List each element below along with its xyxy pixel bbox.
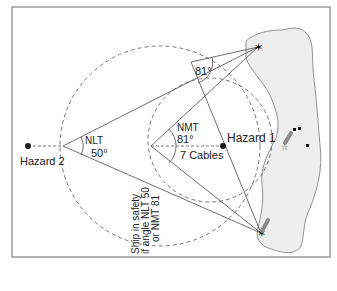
- nlt-label: NLT: [85, 135, 103, 146]
- safety-note-line3: or NMT 81: [150, 195, 161, 242]
- building-icon: [306, 144, 309, 147]
- nlt-angle-value: 50°: [91, 147, 108, 159]
- top-angle-value: 81°: [195, 65, 212, 77]
- building-icon: [293, 128, 296, 131]
- hazard1-label: Hazard 1: [227, 131, 276, 145]
- hazard2-label: Hazard 2: [20, 155, 65, 167]
- hazard2-marker: [25, 143, 31, 149]
- nmt-angle-value: 81°: [177, 133, 194, 145]
- danger-angle-diagram: ✶ ✶ ☆ Hazard 2 Hazard 1 NLT 50° NMT 81° …: [0, 0, 337, 291]
- nmt-label: NMT: [177, 122, 199, 133]
- distance-label: 7 Cables: [180, 149, 224, 161]
- building-icon: [298, 127, 301, 130]
- landmark-north-star-icon: ✶: [254, 41, 263, 53]
